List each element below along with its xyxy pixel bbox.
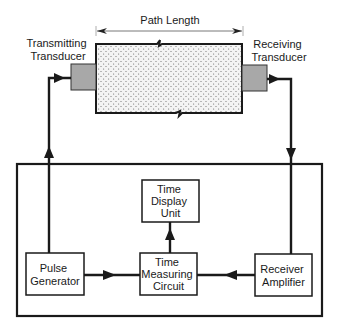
time-measuring-circuit-block: Time Measuring Circuit	[140, 253, 197, 295]
pulse-generator-block: Pulse Generator	[26, 253, 84, 295]
arrow-right-icon	[54, 73, 65, 83]
arrow-down-icon	[286, 148, 296, 160]
transmitting-transducer	[71, 64, 96, 90]
transmitting-transducer-label: Transmitting Transducer	[26, 37, 89, 62]
arrow-up-icon	[44, 146, 54, 158]
receiver-amplifier-block: Receiver Amplifier	[255, 254, 312, 296]
time-display-unit-block: Time Display Unit	[142, 180, 199, 222]
path-length-dimension: Path Length	[96, 14, 243, 36]
arrow-right-icon	[103, 270, 116, 280]
ultrasonic-diagram: Path Length Transmitting Transducer Rece…	[0, 0, 340, 334]
receiving-transducer	[242, 65, 267, 91]
arrow-right-icon	[269, 74, 280, 84]
arrow-left-icon	[224, 270, 237, 280]
svg-text:Receiver Amplifier: Receiver Amplifier	[260, 263, 306, 288]
receiving-transducer-label: Receiving Transducer	[251, 38, 307, 63]
concrete-specimen	[96, 40, 242, 116]
arrow-up-icon	[165, 228, 175, 240]
path-length-label: Path Length	[140, 14, 199, 26]
